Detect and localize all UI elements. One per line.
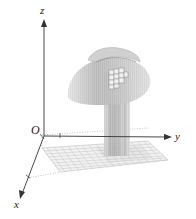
z-axis-label: z <box>40 5 44 16</box>
x-arrow-icon <box>19 190 25 199</box>
y-axis <box>44 136 166 137</box>
axes <box>19 19 172 199</box>
y-axis-label: y <box>175 131 180 142</box>
figure: z y x O <box>0 0 196 219</box>
surface-plot <box>0 0 196 219</box>
cap-surface <box>68 48 151 106</box>
x-axis <box>22 136 44 194</box>
x-axis-label: x <box>14 199 19 210</box>
z-arrow-icon <box>41 19 47 27</box>
origin-label: O <box>31 124 40 136</box>
